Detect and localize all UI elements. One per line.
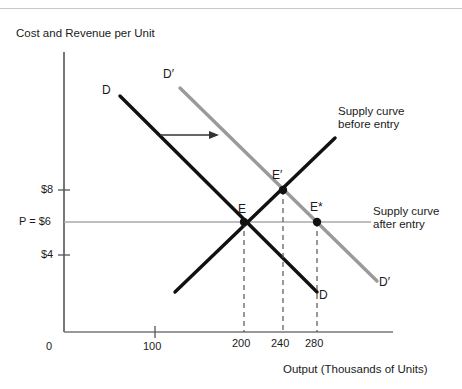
curve-label-demand-shifted-top: D′ <box>163 68 174 81</box>
chart-canvas <box>0 0 462 389</box>
y-tick-label-price: P = $6 <box>19 215 51 228</box>
y-tick-label-4: $4 <box>41 248 53 261</box>
x-tick-label-200: 200 <box>232 337 250 350</box>
annotation-supply-after-entry: Supply curve after entry <box>373 205 439 231</box>
y-axis-title: Cost and Revenue per Unit <box>16 27 155 40</box>
point-E-prime-marker <box>279 186 287 194</box>
x-tick-label-0: 0 <box>46 340 52 353</box>
x-tick-label-280: 280 <box>305 337 323 350</box>
y-tick-label-8: $8 <box>41 183 53 196</box>
point-label-E: E <box>238 203 246 216</box>
x-axis-title: Output (Thousands of Units) <box>283 363 427 376</box>
point-E-star-marker <box>313 218 321 226</box>
economics-chart-figure: Cost and Revenue per Unit Output (Thousa… <box>0 0 462 389</box>
point-label-E-prime: E′ <box>272 169 282 182</box>
demand-shift-arrow-head <box>209 131 219 139</box>
x-tick-label-240: 240 <box>271 337 289 350</box>
curve-label-demand-shifted-bottom: D′ <box>379 276 390 289</box>
point-label-E-star: E* <box>310 201 323 214</box>
x-tick-label-100: 100 <box>143 340 161 353</box>
curve-label-demand-bottom: D <box>319 289 328 302</box>
annotation-supply-before-entry: Supply curve before entry <box>338 105 404 131</box>
point-E-marker <box>240 218 248 226</box>
curve-label-demand-top: D <box>102 84 111 97</box>
